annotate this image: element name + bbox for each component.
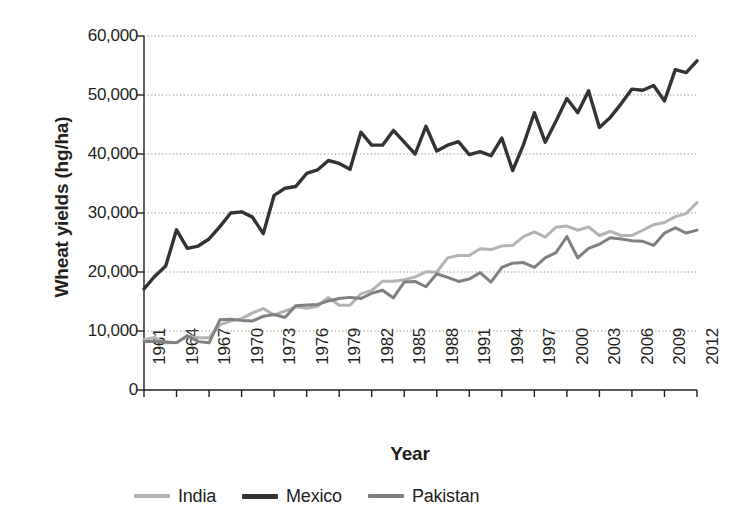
legend-swatch-icon [368,494,404,498]
wheat-yields-line-chart: Wheat yields (hg/ha) 010,00020,00030,000… [0,0,731,527]
legend-label: Pakistan [412,487,479,505]
legend-item-india[interactable]: India [134,487,216,505]
legend-label: Mexico [286,487,342,505]
legend-swatch-icon [134,494,170,498]
legend-item-mexico[interactable]: Mexico [242,487,342,505]
legend-item-pakistan[interactable]: Pakistan [368,487,479,505]
plot-area [0,0,731,527]
legend-swatch-icon [242,494,278,499]
series-line-pakistan [144,228,697,343]
legend-label: India [178,487,216,505]
series-line-india [144,203,697,343]
chart-legend: IndiaMexicoPakistan [134,487,479,505]
